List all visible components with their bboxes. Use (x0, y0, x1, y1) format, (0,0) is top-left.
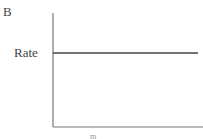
chart-plot (0, 0, 203, 139)
